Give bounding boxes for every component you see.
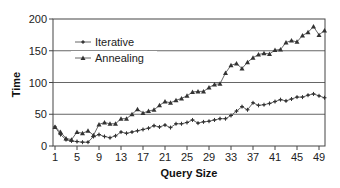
x-tick-label: 29 <box>203 151 215 163</box>
data-point <box>289 38 294 43</box>
data-point <box>218 117 222 121</box>
data-point <box>207 119 211 123</box>
data-point <box>207 85 212 90</box>
y-axis-title: Time <box>10 72 22 97</box>
data-point <box>312 92 316 96</box>
legend: IterativeAnnealing <box>71 35 157 65</box>
x-tick-label: 21 <box>159 151 171 163</box>
data-point <box>136 129 140 133</box>
y-tick-label: 0 <box>41 140 47 152</box>
data-point <box>180 122 184 126</box>
data-point <box>273 100 277 104</box>
data-point <box>75 130 80 135</box>
x-tick-label: 25 <box>181 151 193 163</box>
data-point <box>103 134 107 138</box>
data-point <box>301 95 305 99</box>
data-point <box>157 103 162 108</box>
data-point <box>290 97 294 101</box>
data-point <box>279 98 283 102</box>
data-point <box>152 124 156 128</box>
data-point <box>284 99 288 103</box>
data-point <box>179 96 184 101</box>
y-tick-label: 200 <box>29 13 47 25</box>
data-point <box>251 55 256 60</box>
data-point <box>306 93 310 97</box>
data-point <box>185 121 189 125</box>
x-tick-label: 41 <box>269 151 281 163</box>
y-axis-ticks: 050100150200 <box>29 13 53 152</box>
data-point <box>196 121 200 125</box>
data-point <box>213 118 217 122</box>
data-point <box>191 118 195 122</box>
data-point <box>86 128 91 133</box>
legend-label: Annealing <box>95 52 144 64</box>
legend-label: Iterative <box>95 36 134 48</box>
data-point <box>163 123 167 127</box>
x-tick-label: 1 <box>52 151 58 163</box>
data-point <box>130 130 134 134</box>
data-point <box>224 117 228 121</box>
y-tick-label: 50 <box>35 108 47 120</box>
data-point <box>322 28 327 33</box>
x-tick-label: 9 <box>96 151 102 163</box>
data-point <box>300 33 305 38</box>
data-point <box>257 103 261 107</box>
data-point <box>311 24 316 29</box>
data-point <box>323 96 327 100</box>
x-tick-label: 33 <box>225 151 237 163</box>
x-axis-title: Query Size <box>161 167 218 179</box>
x-tick-label: 5 <box>74 151 80 163</box>
y-tick-label: 100 <box>29 77 47 89</box>
data-point <box>185 93 190 98</box>
data-point <box>75 140 79 144</box>
data-point <box>317 94 321 98</box>
data-point <box>234 61 239 65</box>
x-tick-label: 13 <box>115 151 127 163</box>
x-axis-ticks: 15913172125293337414549 <box>52 146 325 163</box>
data-point <box>102 120 107 125</box>
data-point <box>163 99 168 104</box>
data-point <box>141 127 145 131</box>
data-point <box>147 126 151 130</box>
data-point <box>125 131 129 135</box>
data-point <box>295 95 299 99</box>
data-point <box>108 136 112 140</box>
data-point <box>97 133 101 137</box>
data-point <box>158 125 162 129</box>
x-tick-label: 37 <box>247 151 259 163</box>
x-tick-label: 45 <box>291 151 303 163</box>
data-point <box>81 140 85 144</box>
x-tick-label: 49 <box>313 151 325 163</box>
y-tick-label: 150 <box>29 45 47 57</box>
data-point <box>202 120 206 124</box>
data-point <box>135 107 140 112</box>
x-tick-label: 17 <box>137 151 149 163</box>
data-point <box>268 101 272 105</box>
data-point <box>262 103 266 107</box>
line-chart: 050100150200 15913172125293337414549 Ite… <box>0 0 340 188</box>
